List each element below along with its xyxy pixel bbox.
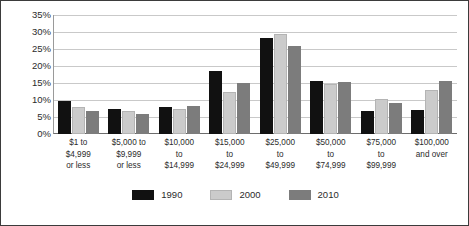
bar-2000 [72, 107, 85, 134]
bar-2010 [237, 83, 250, 134]
bar-2000 [324, 84, 337, 134]
bar-group [356, 15, 407, 134]
bar-1990 [58, 101, 71, 134]
legend-label: 1990 [161, 190, 182, 200]
bar-group [154, 15, 205, 134]
y-axis-tick-label: 30% [5, 27, 51, 37]
bar-2010 [86, 111, 99, 134]
x-axis-category-label: $50,000 to $74,999 [306, 137, 357, 172]
x-axis-category-label: $15,000 to $24,999 [205, 137, 256, 172]
bar-2010 [338, 82, 351, 134]
bar-group [53, 15, 104, 134]
bar-group [255, 15, 306, 134]
y-axis-tick-label: 5% [5, 112, 51, 122]
bar-1990 [209, 71, 222, 134]
y-axis-tick-label: 25% [5, 44, 51, 54]
bar-2000 [122, 111, 135, 134]
bar-2010 [136, 114, 149, 134]
legend-label: 2010 [318, 190, 339, 200]
legend-swatch-icon [289, 190, 311, 200]
x-axis-category-label: $100,000 and over [407, 137, 458, 172]
bar-2000 [173, 109, 186, 134]
bar-2010 [288, 46, 301, 134]
bar-2010 [187, 106, 200, 134]
legend-swatch-icon [210, 190, 232, 200]
y-axis-tick-label: 15% [5, 78, 51, 88]
bar-1990 [159, 107, 172, 134]
bar-2000 [425, 90, 438, 134]
y-axis-tick-label: 0% [5, 129, 51, 139]
y-axis-tick-label: 35% [5, 10, 51, 20]
bar-group [306, 15, 357, 134]
bar-2010 [439, 81, 452, 134]
bar-1990 [260, 38, 273, 134]
chart-figure: 35%30%25%20%15%10%5%0% $1 to $4,999 or l… [0, 0, 469, 226]
y-axis: 35%30%25%20%15%10%5%0% [1, 15, 51, 134]
bar-group [104, 15, 155, 134]
bar-group [205, 15, 256, 134]
legend-label: 2000 [239, 190, 260, 200]
x-axis-category-label: $5,000 to $9,999 or less [104, 137, 155, 172]
bar-2000 [375, 99, 388, 134]
bar-1990 [108, 109, 121, 134]
bar-1990 [411, 110, 424, 134]
x-axis-category-label: $75,000 to $99,999 [356, 137, 407, 172]
bar-1990 [361, 111, 374, 134]
x-axis-category-label: $10,000 to $14,999 [154, 137, 205, 172]
legend-swatch-icon [132, 190, 154, 200]
bar-2000 [223, 92, 236, 134]
bar-2010 [389, 103, 402, 134]
legend-item-2000[interactable]: 2000 [210, 190, 260, 200]
bar-groups-container [53, 15, 457, 134]
x-axis-labels: $1 to $4,999 or less$5,000 to $9,999 or … [53, 137, 457, 172]
y-axis-tick-label: 20% [5, 61, 51, 71]
x-axis-category-label: $25,000 to $49,999 [255, 137, 306, 172]
x-axis-category-label: $1 to $4,999 or less [53, 137, 104, 172]
bar-group [407, 15, 458, 134]
legend-item-1990[interactable]: 1990 [132, 190, 182, 200]
y-axis-tick-label: 10% [5, 95, 51, 105]
bar-2000 [274, 34, 287, 134]
chart-legend: 199020002010 [1, 190, 469, 200]
bar-1990 [310, 81, 323, 134]
legend-item-2010[interactable]: 2010 [289, 190, 339, 200]
